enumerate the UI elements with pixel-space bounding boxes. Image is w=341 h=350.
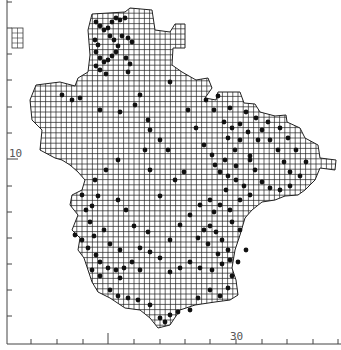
- record-dot: [116, 198, 121, 203]
- record-dot: [110, 20, 115, 25]
- record-dot: [294, 148, 299, 153]
- record-dot: [238, 122, 243, 127]
- record-dot: [260, 128, 265, 133]
- record-dot: [286, 136, 291, 141]
- record-dot: [238, 138, 243, 143]
- record-dot: [158, 256, 163, 261]
- record-dot: [104, 168, 109, 173]
- record-dot: [108, 242, 113, 247]
- record-dot: [228, 258, 233, 263]
- record-dot: [206, 242, 211, 247]
- record-dot: [238, 198, 243, 203]
- record-dot: [222, 120, 227, 125]
- record-dot: [254, 116, 259, 121]
- record-dot: [208, 224, 213, 229]
- distribution-map: 10 30: [0, 0, 341, 350]
- record-dot: [218, 170, 223, 175]
- record-dot: [93, 38, 98, 43]
- record-dot: [124, 56, 129, 61]
- record-dot: [108, 34, 113, 39]
- record-dot: [218, 294, 223, 299]
- record-dot: [182, 170, 187, 175]
- record-dot: [278, 188, 283, 193]
- record-dot: [104, 72, 109, 77]
- record-dot: [148, 168, 153, 173]
- record-dot: [146, 230, 151, 235]
- record-dot: [196, 236, 201, 241]
- record-dot: [226, 136, 231, 141]
- record-dot: [288, 170, 293, 175]
- record-dot: [106, 26, 111, 31]
- record-dot: [70, 98, 75, 103]
- record-dot: [173, 178, 178, 183]
- record-dot: [143, 148, 148, 153]
- record-dot: [198, 203, 203, 208]
- record-dot: [266, 120, 271, 125]
- record-dot: [148, 128, 153, 133]
- record-dot: [120, 34, 125, 39]
- record-dot: [80, 193, 85, 198]
- record-dot: [228, 208, 233, 213]
- record-dot: [106, 266, 111, 271]
- record-dot: [244, 248, 249, 253]
- record-dot: [212, 210, 217, 215]
- record-dot: [94, 253, 99, 258]
- record-dot: [226, 248, 231, 253]
- record-dot: [118, 18, 123, 23]
- grid-squares: [25, 3, 341, 333]
- x-axis-label: 30: [230, 330, 243, 343]
- record-dot: [260, 180, 265, 185]
- record-dot: [218, 203, 223, 208]
- record-dot: [210, 153, 215, 158]
- y-axis-label: 10: [9, 147, 22, 160]
- record-dot: [118, 110, 123, 115]
- record-dot: [220, 262, 225, 267]
- record-dot: [148, 303, 153, 308]
- record-dot: [128, 62, 133, 67]
- record-dot: [196, 296, 201, 301]
- record-dot: [168, 80, 173, 85]
- record-dot: [133, 103, 138, 108]
- record-dot: [116, 44, 121, 49]
- record-dot: [114, 50, 119, 55]
- record-dot: [130, 40, 135, 45]
- record-dot: [230, 126, 235, 131]
- record-dot: [116, 158, 121, 163]
- record-dot: [234, 164, 239, 169]
- record-dot: [86, 246, 91, 251]
- record-dot: [216, 94, 221, 99]
- record-dot: [178, 223, 183, 228]
- record-dot: [253, 168, 258, 173]
- record-dot: [148, 250, 153, 255]
- record-dot: [114, 268, 119, 273]
- record-dot: [60, 93, 65, 98]
- inset-box: [12, 28, 23, 48]
- record-dot: [126, 296, 131, 301]
- x-axis-ticks: [31, 333, 338, 344]
- record-dot: [268, 186, 273, 191]
- record-dot: [168, 313, 173, 318]
- record-dot: [233, 148, 238, 153]
- record-dot: [126, 36, 131, 41]
- record-dot: [228, 106, 233, 111]
- record-dot: [116, 294, 121, 299]
- record-dot: [80, 238, 85, 243]
- record-dot: [304, 160, 309, 165]
- record-dot: [186, 108, 191, 113]
- record-dot: [216, 252, 221, 257]
- record-dot: [98, 108, 103, 113]
- record-dot: [288, 184, 293, 189]
- record-dot: [194, 126, 199, 131]
- record-dot: [176, 310, 181, 315]
- record-dot: [98, 56, 103, 61]
- record-dot: [223, 158, 228, 163]
- record-dot: [138, 268, 143, 273]
- record-dot: [84, 208, 89, 213]
- record-dot: [224, 188, 229, 193]
- record-dot: [124, 208, 129, 213]
- record-dot: [168, 270, 173, 275]
- record-dot: [210, 268, 215, 273]
- record-dot: [212, 108, 217, 113]
- record-dot: [118, 248, 123, 253]
- record-dot: [96, 194, 101, 199]
